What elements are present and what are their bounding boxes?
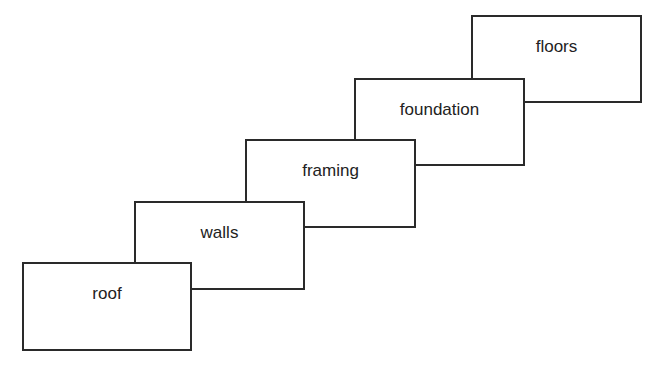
box-label: floors bbox=[473, 37, 640, 57]
box-label: foundation bbox=[356, 100, 523, 120]
box-roof: roof bbox=[22, 262, 192, 351]
box-label: framing bbox=[247, 161, 414, 181]
box-label: roof bbox=[24, 284, 190, 304]
box-label: walls bbox=[136, 223, 303, 243]
